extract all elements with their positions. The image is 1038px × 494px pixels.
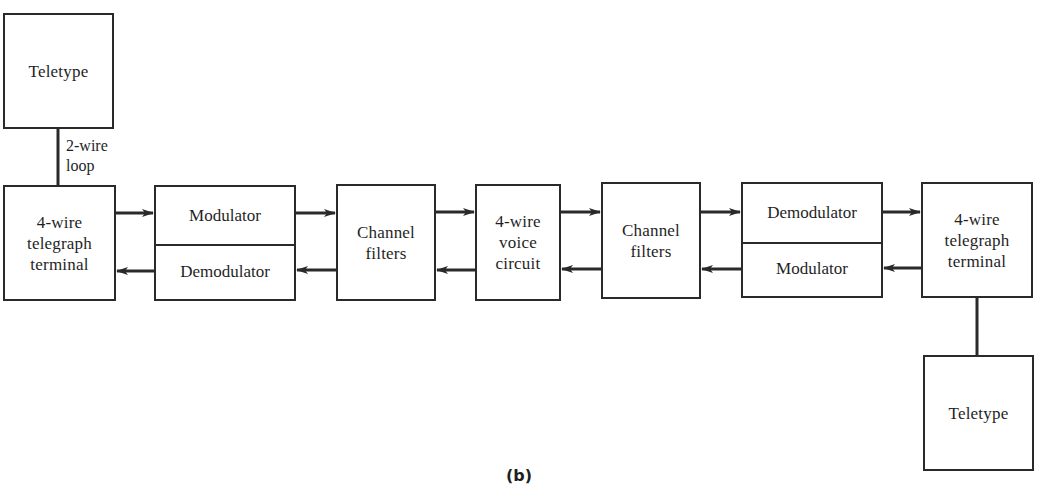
- telegraph-terminal-left-label: 4-wire telegraph terminal: [27, 212, 92, 275]
- modem-left-block: Modulator Demodulator: [154, 185, 296, 301]
- figure-caption: (b): [0, 466, 1038, 485]
- modulator-left-label: Modulator: [189, 206, 261, 226]
- demodulator-right-section: Demodulator: [743, 184, 881, 244]
- modulator-right-section: Modulator: [743, 242, 881, 296]
- demodulator-left-label: Demodulator: [180, 262, 270, 282]
- telegraph-terminal-right-block: 4-wire telegraph terminal: [921, 182, 1033, 298]
- modulator-right-label: Modulator: [776, 259, 848, 279]
- two-wire-loop-label: 2-wire loop: [66, 136, 108, 176]
- demodulator-left-section: Demodulator: [156, 244, 294, 299]
- demodulator-right-label: Demodulator: [767, 203, 857, 223]
- teletype-right-block: Teletype: [923, 355, 1034, 471]
- channel-filters-right-block: Channel filters: [601, 182, 701, 299]
- teletype-right-label: Teletype: [949, 403, 1009, 424]
- telegraph-terminal-right-label: 4-wire telegraph terminal: [944, 209, 1009, 272]
- voice-circuit-block: 4-wire voice circuit: [475, 184, 561, 301]
- modem-right-block: Demodulator Modulator: [741, 182, 883, 298]
- channel-filters-left-label: Channel filters: [357, 222, 415, 264]
- voice-circuit-label: 4-wire voice circuit: [495, 211, 541, 274]
- channel-filters-right-label: Channel filters: [622, 220, 680, 262]
- telegraph-terminal-left-block: 4-wire telegraph terminal: [3, 185, 116, 301]
- modulator-left-section: Modulator: [156, 187, 294, 246]
- teletype-left-block: Teletype: [3, 13, 114, 129]
- channel-filters-left-block: Channel filters: [336, 184, 436, 301]
- teletype-left-label: Teletype: [29, 61, 89, 82]
